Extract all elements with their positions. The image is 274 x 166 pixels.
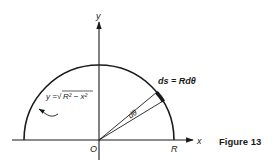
radius-point-label: R [171,144,178,154]
semicircle-diagram: y x O R ds = Rdθ dθ y = √ R² − x² Figure… [0,0,274,166]
figure-caption: Figure 13 [219,136,261,147]
angle-label: dθ [126,108,139,121]
equation-leader [39,109,58,116]
arc-length-label: ds = Rdθ [158,76,196,86]
arc-element-ds [157,92,164,101]
curve-equation-body: R² − x² [63,92,88,101]
curve-equation-prefix: y = [45,92,57,101]
origin-label: O [90,144,97,154]
curve-equation: y = √ R² − x² [45,91,93,101]
y-axis-label: y [95,11,101,21]
curve-equation-radical: √ [57,92,62,101]
x-axis-label: x [196,136,202,146]
